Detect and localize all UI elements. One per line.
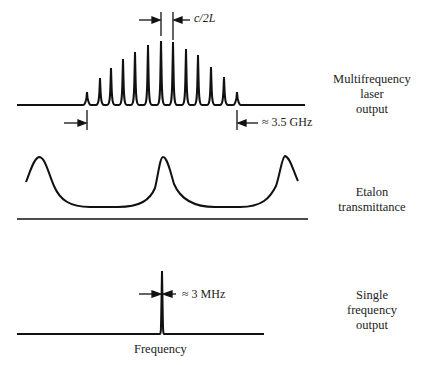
laser-bandwidth-arrows: [64, 110, 258, 130]
label-line: Multifrequency: [322, 72, 422, 87]
single-frequency-plot: [17, 271, 264, 334]
label-line: frequency: [322, 303, 422, 318]
label-line: Etalon: [322, 185, 422, 200]
linewidth-arrows: [139, 291, 176, 297]
etalon-transmittance-plot: [17, 156, 308, 219]
panel-label-etalon: Etalon transmittance: [322, 185, 422, 215]
laser-comb-plot: [17, 41, 305, 105]
label-line: laser: [322, 87, 422, 102]
label-line: transmittance: [322, 200, 422, 215]
x-axis-label: Frequency: [134, 342, 187, 357]
laser-comb-trace: [17, 41, 305, 105]
mode-spacing-label: c/2L: [194, 11, 215, 26]
panel-label-laser: Multifrequency laser output: [322, 72, 422, 117]
label-line: Single: [322, 288, 422, 303]
linewidth-label: ≈ 3 MHz: [182, 287, 225, 302]
label-line: output: [322, 102, 422, 117]
gain-bandwidth-label: ≈ 3.5 GHz: [262, 115, 312, 130]
mode-spacing-arrows: [139, 12, 190, 40]
label-line: output: [322, 318, 422, 333]
panel-label-single: Single frequency output: [322, 288, 422, 333]
